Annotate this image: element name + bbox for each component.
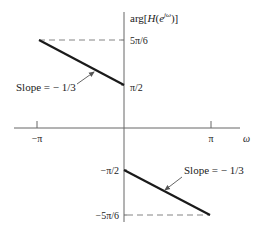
x-axis-title: ω	[243, 133, 250, 144]
y-tick-label-neg-pi2: −π/2	[101, 165, 119, 176]
slope-annotation-lower: Slope = − 1/3	[184, 164, 244, 176]
phase-segment-positive-omega	[124, 170, 210, 215]
phase-response-diagram: arg[H(ejω)] 5π/6 π/2 −π/2 −5π/6 −π π ω S…	[0, 0, 260, 235]
y-axis-title: arg[H(ejω)]	[130, 11, 178, 25]
slope-annotation-upper: Slope = − 1/3	[16, 81, 76, 93]
y-tick-label-pi2: π/2	[130, 82, 143, 93]
x-tick-label-neg-pi: −π	[32, 133, 43, 144]
x-tick-label-pi: π	[208, 133, 213, 144]
phase-segment-negative-omega	[39, 40, 124, 85]
y-tick-label-5pi6: 5π/6	[130, 35, 148, 46]
y-tick-label-neg-5pi6: −5π/6	[96, 210, 119, 221]
slope-arrow-lower	[165, 177, 182, 190]
slope-arrow-upper	[77, 72, 94, 84]
